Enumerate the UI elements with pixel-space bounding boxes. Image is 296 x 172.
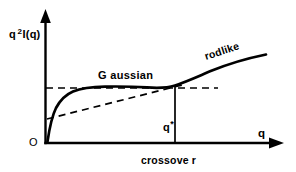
- qstar-label-base: q: [163, 121, 170, 133]
- x-axis-label: q: [258, 127, 265, 139]
- kratky-plot-figure: q2I(q) O q G aussian rodlike q* crossove…: [0, 0, 296, 172]
- rodlike-asymptote: [47, 84, 186, 119]
- plot-canvas: q2I(q) O q G aussian rodlike q* crossove…: [0, 0, 296, 172]
- qstar-label-superscript: *: [170, 119, 174, 129]
- y-axis-label-tail: I(q): [23, 28, 41, 40]
- x-axis-arrowhead: [269, 137, 284, 148]
- crossover-label: crossove r: [141, 154, 196, 166]
- origin-label: O: [29, 136, 38, 148]
- scattering-curve: [48, 55, 267, 142]
- y-axis-arrowhead: [40, 9, 51, 23]
- qstar-label: q*: [163, 119, 174, 133]
- y-axis-label-base: q: [9, 28, 16, 40]
- rodlike-regime-label: rodlike: [203, 39, 241, 61]
- y-axis-label: q2I(q): [9, 27, 41, 40]
- gaussian-regime-label: G aussian: [98, 69, 153, 81]
